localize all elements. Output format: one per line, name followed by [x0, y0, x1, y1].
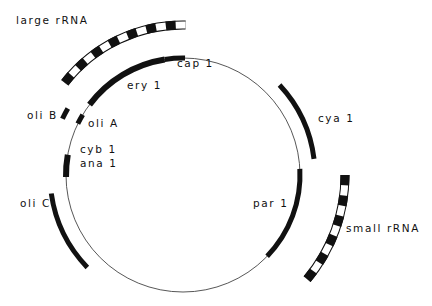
label-cap1: cap 1	[177, 57, 214, 69]
label-cya1: cya 1	[318, 112, 354, 124]
label-ery1: ery 1	[127, 79, 162, 91]
label-small-rrna: small rRNA	[346, 222, 420, 234]
gene-arc-smallRRNA-segment	[307, 271, 313, 279]
label-par1: par 1	[253, 197, 288, 209]
label-cyb1: cyb 1	[80, 143, 117, 155]
label-olic: oli C	[20, 197, 51, 209]
gene-arc-largeRRNA-segment	[65, 75, 71, 83]
gene-arc-largeRRNA-segment	[128, 32, 137, 35]
label-olib: oli B	[27, 109, 58, 121]
gene-arc-oliC	[51, 194, 87, 268]
genetic-map-diagram	[0, 0, 432, 306]
gene-arc-smallRRNA-segment	[319, 254, 324, 263]
label-large-rrna: large rRNA	[16, 14, 89, 26]
label-ana1: ana 1	[80, 157, 118, 169]
gene-arc-oliB	[62, 109, 67, 119]
gene-arc-par1	[267, 169, 300, 256]
label-olia: oli A	[88, 117, 119, 129]
gene-arc-smallRRNA-segment	[329, 235, 333, 244]
gene-arc-oliA	[78, 115, 83, 124]
gene-arc-smallRRNA-segment	[337, 216, 340, 226]
gene-arc-largeRRNA-segment	[146, 27, 156, 29]
gene-arc-largeRRNA-segment	[166, 25, 176, 26]
gene-arc-largeRRNA-segment	[78, 61, 85, 68]
gene-arc-cyb1	[66, 155, 68, 177]
gene-arc-largeRRNA-segment	[93, 49, 101, 55]
gene-arc-smallRRNA-segment	[342, 196, 344, 206]
gene-arc-largeRRNA-segment	[110, 40, 119, 45]
